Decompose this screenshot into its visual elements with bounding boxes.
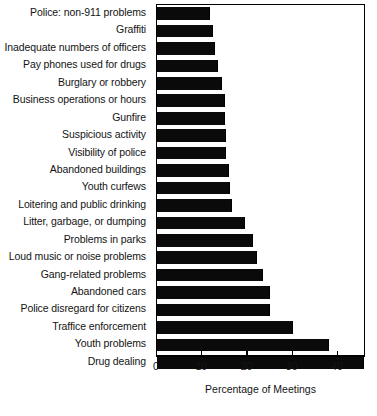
category-label: Business operations or hours [0,91,150,108]
category-label: Police disregard for citizens [0,300,150,317]
bar [157,7,210,20]
x-axis-tick [337,351,338,356]
category-label: Litter, garbage, or dumping [0,213,150,230]
x-axis-tick-label: 10 [195,360,207,372]
category-label: Problems in parks [0,231,150,248]
x-axis-tick [156,351,157,356]
bar [157,42,215,55]
bar [157,112,225,125]
category-label: Police: non-911 problems [0,4,150,21]
bar [157,182,230,195]
bar-chart: Police: non-911 problemsGraffitiInadequa… [0,0,377,416]
category-label: Loud music or noise problems [0,248,150,265]
bar-row [157,284,364,301]
bar-row [157,145,364,162]
category-label: Gang-related problems [0,266,150,283]
x-axis-tick [201,351,202,356]
category-label: Youth problems [0,335,150,352]
x-axis-tick-label: 40 [331,360,343,372]
bar-row [157,336,364,353]
category-label: Burglary or robbery [0,74,150,91]
x-axis-tick-label: 0 [153,360,159,372]
category-label: Graffiti [0,21,150,38]
category-label: Inadequate numbers of officers [0,39,150,56]
category-label: Drug dealing [0,353,150,370]
bar-row [157,57,364,74]
bar [157,304,270,317]
bar [157,251,257,264]
bar-row [157,92,364,109]
bar [157,217,245,230]
bar [157,129,226,142]
bar-row [157,75,364,92]
bar [157,147,226,160]
category-label: Suspicious activity [0,126,150,143]
bar-row [157,162,364,179]
category-label: Loitering and public drinking [0,196,150,213]
x-axis-tick-label: 20 [241,360,253,372]
bar-row [157,40,364,57]
bar-row [157,232,364,249]
bar [157,60,218,73]
bar [157,94,225,107]
bar-row [157,127,364,144]
bar [157,234,253,247]
bar-row [157,319,364,336]
category-label: Abandoned buildings [0,161,150,178]
category-label: Pay phones used for drugs [0,56,150,73]
bar [157,339,329,352]
x-axis-tick [292,351,293,356]
bar-row [157,267,364,284]
bars-layer [157,5,364,355]
bar-row [157,5,364,22]
bar-row [157,249,364,266]
bar [157,269,263,282]
category-label: Gunfire [0,109,150,126]
plot-area [156,4,365,356]
x-axis: 010203040 [156,356,365,357]
bar [157,199,232,212]
category-label: Abandoned cars [0,283,150,300]
bar-row [157,179,364,196]
bar [157,286,270,299]
x-axis-title: Percentage of Meetings [156,383,365,395]
category-label: Visibility of police [0,144,150,161]
bar-row [157,301,364,318]
category-label: Youth curfews [0,178,150,195]
bar [157,164,229,177]
bar-row [157,214,364,231]
x-axis-tick [246,351,247,356]
x-axis-tick-label: 30 [286,360,298,372]
bar [157,77,222,90]
bar [157,321,293,334]
x-axis-line [156,356,365,357]
category-label: Traffice enforcement [0,318,150,335]
bar-row [157,110,364,127]
bar [157,25,213,38]
bar-row [157,22,364,39]
category-label-column: Police: non-911 problemsGraffitiInadequa… [0,4,150,370]
bar-row [157,197,364,214]
